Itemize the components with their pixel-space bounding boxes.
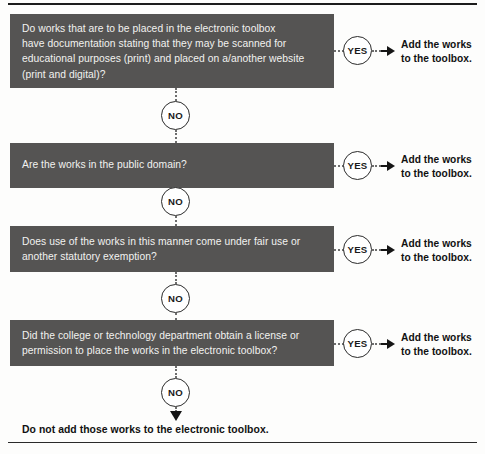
connector-3-no-dotted-lower: [175, 313, 177, 320]
no-node-3: NO: [161, 284, 190, 313]
question-2-line-1: Are the works in the public domain?: [22, 157, 324, 172]
question-box-3: Does use of the works in this manner com…: [10, 226, 334, 272]
outcome-1-line-1: Add the works: [401, 38, 485, 52]
outcome-3: Add the works to the toolbox.: [401, 237, 485, 264]
outcome-4: Add the works to the toolbox.: [401, 331, 485, 358]
outcome-1: Add the works to the toolbox.: [401, 38, 485, 65]
question-box-1: Do works that are to be placed in the el…: [10, 14, 334, 88]
yes-node-4: YES: [343, 329, 372, 358]
final-conclusion-text: Do not add those works to the electronic…: [22, 424, 269, 435]
bottom-divider: [8, 442, 477, 443]
question-1-line-1: Do works that are to be placed in the el…: [22, 21, 324, 36]
connector-2-no-dotted-lower: [175, 216, 177, 226]
top-divider: [8, 3, 477, 5]
outcome-2-line-2: to the toolbox.: [401, 167, 485, 181]
connector-4-no-dotted-upper: [175, 366, 177, 378]
question-3-line-1: Does use of the works in this manner com…: [22, 234, 324, 249]
flowchart-page: Do works that are to be placed in the el…: [0, 0, 485, 454]
outcome-3-line-2: to the toolbox.: [401, 251, 485, 265]
yes-node-2: YES: [343, 151, 372, 180]
outcome-2: Add the works to the toolbox.: [401, 153, 485, 180]
question-1-line-2: have documentation stating that they may…: [22, 36, 324, 51]
connector-1-no-dotted-lower: [175, 130, 177, 143]
connector-1-yes-dotted-2: [372, 50, 381, 52]
connector-1-no-dotted-upper: [175, 88, 177, 101]
connector-3-yes-dotted-2: [372, 249, 381, 251]
arrow-3-head-icon: [387, 245, 395, 255]
outcome-1-line-2: to the toolbox.: [401, 52, 485, 66]
arrow-2-head-icon: [387, 161, 395, 171]
question-box-2: Are the works in the public domain?: [10, 143, 334, 188]
connector-4-yes-dotted-2: [372, 343, 381, 345]
question-1-line-4: (print and digital)?: [22, 67, 324, 82]
arrow-final-head-icon: [170, 411, 182, 421]
no-node-2: NO: [161, 187, 190, 216]
no-node-4: NO: [161, 378, 190, 407]
outcome-4-line-1: Add the works: [401, 331, 485, 345]
question-4-line-2: permission to place the works in the ele…: [22, 343, 324, 358]
question-3-line-2: another statutory exemption?: [22, 249, 324, 264]
question-1-line-3: educational purposes (print) and placed …: [22, 51, 324, 66]
arrow-4-head-icon: [387, 339, 395, 349]
arrow-1-head-icon: [387, 46, 395, 56]
connector-2-yes-dotted-2: [372, 165, 381, 167]
outcome-2-line-1: Add the works: [401, 153, 485, 167]
question-box-4: Did the college or technology department…: [10, 320, 334, 366]
no-node-1: NO: [161, 101, 190, 130]
yes-node-1: YES: [343, 36, 372, 65]
outcome-3-line-1: Add the works: [401, 237, 485, 251]
outcome-4-line-2: to the toolbox.: [401, 345, 485, 359]
question-4-line-1: Did the college or technology department…: [22, 328, 324, 343]
connector-3-no-dotted-upper: [175, 272, 177, 284]
yes-node-3: YES: [343, 235, 372, 264]
